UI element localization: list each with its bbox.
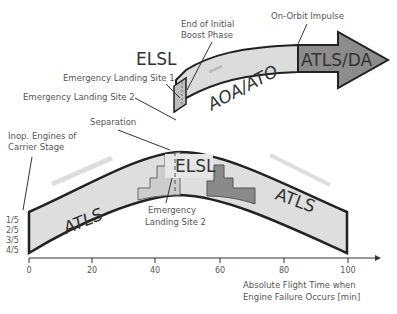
- atls-da-label: ATLS/DA: [301, 50, 372, 70]
- inop-label-1: Inop. Engines of: [8, 131, 77, 141]
- elsl-upper-label: ELSL: [136, 49, 177, 69]
- tick-20: 20: [87, 266, 97, 275]
- time-axis: 0 20 40 60 80 100 Absolute Flight Time w…: [26, 255, 381, 302]
- upper-arrow: AOA/ATO ATLS/DA: [174, 32, 388, 115]
- end-boost-label-1: End of Initial: [181, 19, 234, 29]
- axis-label-2: Engine Failure Occurs [min]: [243, 292, 360, 302]
- on-orbit-label: On-Orbit Impulse: [271, 11, 344, 21]
- tick-80: 80: [279, 266, 289, 275]
- tick-100: 100: [340, 266, 355, 275]
- axis-label-1: Absolute Flight Time when: [243, 280, 356, 290]
- engine-level-3: 3/5: [6, 236, 19, 245]
- tick-0: 0: [26, 266, 31, 275]
- engine-level-4: 4/5: [6, 246, 19, 255]
- elsl-lower-label: ELSL: [175, 156, 216, 176]
- inop-label-2: Carrier Stage: [8, 142, 64, 152]
- on-orbit-pointer: [298, 24, 307, 44]
- end-boost-label-2: Boost Phase: [181, 30, 233, 40]
- tick-40: 40: [150, 266, 160, 275]
- abort-modes-diagram: AOA/ATO ATLS/DA ELSL Emergency Landing S…: [0, 0, 397, 314]
- lower-band: ELSL ATLS ATLS: [29, 152, 347, 253]
- separation-label: Separation: [90, 117, 136, 127]
- tick-60: 60: [215, 266, 225, 275]
- site2-lower-label-1: Emergency: [148, 205, 196, 215]
- axis-arrow-icon: [375, 255, 381, 261]
- site2-pointer: [135, 98, 176, 120]
- site2-label: Emergency Landing Site 2: [23, 92, 135, 102]
- separation-pointer: [118, 130, 170, 150]
- site2-lower-label-2: Landing Site 2: [145, 217, 206, 227]
- engine-level-2: 2/5: [6, 226, 19, 235]
- inop-pointer: [23, 157, 32, 210]
- engine-level-1: 1/5: [6, 216, 19, 225]
- site1-label: Emergency Landing Site 1: [63, 73, 175, 83]
